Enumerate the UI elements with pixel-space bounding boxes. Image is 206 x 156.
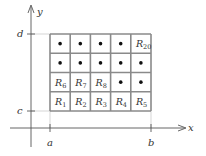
cell-label-R20: R20 <box>135 38 151 51</box>
cell-label-R8: R8 <box>95 77 107 90</box>
x-axis-label: x <box>188 122 194 133</box>
cell-label-R4: R4 <box>115 96 127 109</box>
cell-dot-icon <box>139 61 143 65</box>
cell-label-R3: R3 <box>95 96 107 109</box>
cell-dot-icon <box>79 42 83 46</box>
cell-dot-icon <box>79 61 83 65</box>
cell-dot-icon <box>58 42 62 46</box>
cell-label-R2: R2 <box>74 96 86 109</box>
cell-dot-icon <box>58 61 62 65</box>
cell-dot-icon <box>119 80 123 84</box>
tick-label-d: d <box>17 28 23 39</box>
cell-dot-icon <box>119 42 123 46</box>
y-axis-label: y <box>36 6 43 17</box>
riemann-grid-diagram: y x d c a b R20R6R7R8R1R2R3R4R5 <box>0 0 206 156</box>
tick-label-b: b <box>148 137 154 148</box>
cell-label-R6: R6 <box>54 77 66 90</box>
cell-dot-icon <box>119 61 123 65</box>
cell-dot-icon <box>139 80 143 84</box>
tick-label-c: c <box>17 105 23 116</box>
partition-grid: R20R6R7R8R1R2R3R4R5 <box>50 34 151 111</box>
cell-label-R5: R5 <box>135 96 147 109</box>
cell-label-R7: R7 <box>74 77 86 90</box>
cell-dot-icon <box>99 42 103 46</box>
cell-label-R1: R1 <box>54 96 66 109</box>
tick-label-a: a <box>47 137 53 148</box>
cell-dot-icon <box>99 61 103 65</box>
